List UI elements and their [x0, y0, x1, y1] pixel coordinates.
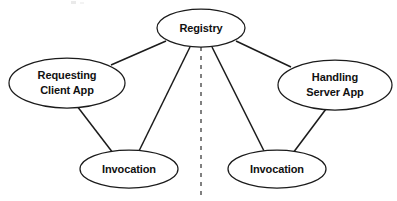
node-requesting-client-app-label-line2: Client App	[40, 84, 94, 96]
node-requesting-client-app[interactable]: Requesting Client App	[9, 58, 125, 108]
edge-client-app-to-invocation-client	[77, 106, 113, 153]
edge-server-app-to-invocation-server	[293, 109, 326, 153]
node-invocation-client-label: Invocation	[102, 163, 156, 175]
node-invocation-server[interactable]: Invocation	[228, 150, 326, 188]
node-handling-server-app-label-line1: Handling	[312, 71, 358, 83]
node-registry[interactable]: Registry	[157, 9, 245, 47]
node-invocation-client[interactable]: Invocation	[80, 150, 178, 188]
edge-registry-to-server-app	[236, 41, 291, 67]
node-handling-server-app-label-line2: Server App	[306, 86, 364, 98]
node-registry-label: Registry	[179, 22, 223, 34]
registry-diagram: Registry Requesting Client App Handling …	[0, 0, 397, 201]
edge-registry-to-client-app	[111, 41, 166, 65]
edge-registry-to-invocation-server	[212, 47, 264, 151]
node-requesting-client-app-label-line1: Requesting	[38, 69, 97, 81]
edge-registry-to-invocation-client	[139, 47, 190, 151]
diagram-canvas: Registry Requesting Client App Handling …	[0, 0, 397, 201]
node-handling-server-app[interactable]: Handling Server App	[278, 60, 392, 110]
node-invocation-server-label: Invocation	[250, 163, 304, 175]
